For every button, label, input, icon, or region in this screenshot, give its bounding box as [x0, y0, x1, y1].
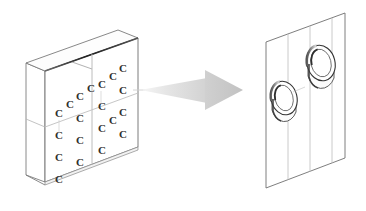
dimple: C: [119, 128, 127, 140]
dimple: C: [76, 90, 84, 102]
dimple: C: [119, 84, 127, 96]
block-side-face: [26, 63, 45, 182]
detail-panel: [266, 13, 345, 188]
dimple: C: [119, 62, 127, 74]
dimple: C: [55, 173, 63, 185]
technical-illustration: C C C C C C C C C C C C C C C C C C C C: [0, 0, 366, 211]
dimple: C: [109, 70, 117, 82]
dimple: C: [98, 100, 106, 112]
dimple: C: [109, 114, 117, 126]
dimple: C: [55, 107, 63, 119]
dimple: C: [76, 112, 84, 124]
dimple: C: [98, 122, 106, 134]
dimple: C: [98, 78, 106, 90]
dimple: C: [98, 144, 106, 156]
dimple: C: [76, 134, 84, 146]
dimple: C: [55, 151, 63, 163]
dimple: C: [87, 82, 95, 94]
dimple: C: [76, 156, 84, 168]
illustration-canvas: C C C C C C C C C C C C C C C C C C C C: [0, 0, 366, 211]
dimple: C: [66, 98, 74, 110]
dimple: C: [119, 106, 127, 118]
